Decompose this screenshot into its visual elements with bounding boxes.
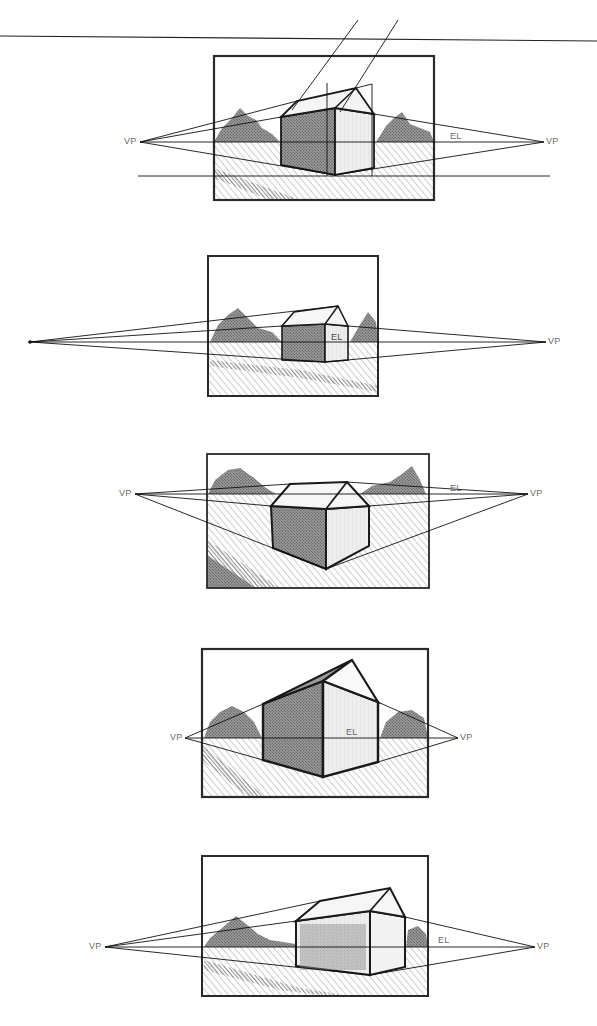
house-left-wall [282,324,325,362]
vp-label-left-5: VP [89,942,101,951]
vp-label-left-1: VP [124,137,136,146]
vp-label-right-5: VP [537,942,549,951]
el-label-2: EL [331,333,342,342]
panel-4 [185,649,458,797]
perspective-sketches [0,0,597,1026]
vp-label-left-4: VP [170,733,182,742]
el-label-3: EL [450,484,461,493]
vp-label-right-1: VP [546,137,558,146]
vp-label-right-4: VP [460,733,472,742]
el-label-1: EL [450,132,461,141]
vp-label-right-2: VP [548,337,560,346]
house-right-wall [325,324,348,362]
panel-2 [28,256,546,396]
panel-5 [105,856,535,996]
vp-label-right-3: VP [530,489,542,498]
panel-1 [138,20,550,200]
vp-label-left-3: VP [119,489,131,498]
house-right-wall [335,108,374,175]
top-rule [0,36,597,41]
panel-3 [135,454,528,588]
house-right-wall [370,911,405,975]
el-label-4: EL [346,728,357,737]
el-label-5: EL [438,936,449,945]
